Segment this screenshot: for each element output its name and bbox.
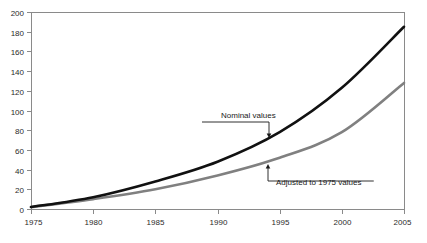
y-tick-label: 100 [11, 108, 25, 117]
y-axis-ticks: 020406080100120140160180200 [11, 9, 31, 215]
annotation-group: Nominal valuesAdjusted to 1975 values [202, 111, 374, 187]
y-tick-label: 160 [11, 48, 25, 57]
y-tick-label: 40 [15, 167, 24, 176]
y-tick-label: 180 [11, 29, 25, 38]
x-tick-label: 1990 [210, 218, 228, 227]
annotation-leader-line [202, 122, 269, 135]
line-chart: 020406080100120140160180200 197519801985… [0, 0, 427, 243]
y-tick-label: 120 [11, 88, 25, 97]
x-tick-label: 2005 [394, 218, 412, 227]
y-tick-label: 20 [15, 186, 24, 195]
x-axis-ticks: 1975198019851990199520002005 [25, 209, 412, 227]
annotation-label: Nominal values [221, 111, 276, 120]
x-tick-label: 2000 [334, 218, 352, 227]
y-tick-label: 200 [11, 9, 25, 18]
x-tick-label: 1975 [25, 218, 43, 227]
x-tick-label: 1995 [272, 218, 290, 227]
annotation-arrowhead [266, 164, 271, 168]
x-tick-label: 1985 [147, 218, 165, 227]
chart-canvas: 020406080100120140160180200 197519801985… [0, 0, 427, 243]
y-tick-label: 60 [15, 147, 24, 156]
y-tick-label: 80 [15, 127, 24, 136]
x-tick-label: 1980 [85, 218, 103, 227]
series-line-adjusted [31, 83, 404, 207]
y-tick-label: 0 [20, 206, 25, 215]
y-tick-label: 140 [11, 68, 25, 77]
annotation-label: Adjusted to 1975 values [276, 178, 361, 187]
